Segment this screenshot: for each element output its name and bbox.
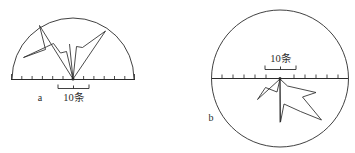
panel-b: 10条 b xyxy=(209,10,349,147)
panel-a-scale-bar xyxy=(58,85,89,89)
panel-a-label: a xyxy=(38,92,43,103)
panel-a-arc xyxy=(12,18,134,79)
panel-a-scale-label: 10条 xyxy=(63,91,85,103)
figure-container: 10条 a xyxy=(0,0,355,153)
panel-b-scale-bar xyxy=(265,66,296,70)
panel-b-petal-left xyxy=(258,79,281,100)
panel-b-label: b xyxy=(209,112,214,123)
panel-a: 10条 a xyxy=(11,18,135,103)
panel-b-petal-right xyxy=(280,79,322,122)
rose-diagram-figure: 10条 a xyxy=(0,0,355,153)
panel-a-petal-right xyxy=(73,31,106,79)
panel-b-center-point xyxy=(279,77,282,80)
panel-a-petal-left xyxy=(24,26,74,80)
panel-a-center-point xyxy=(72,78,75,81)
panel-b-scale-label: 10条 xyxy=(270,52,292,64)
